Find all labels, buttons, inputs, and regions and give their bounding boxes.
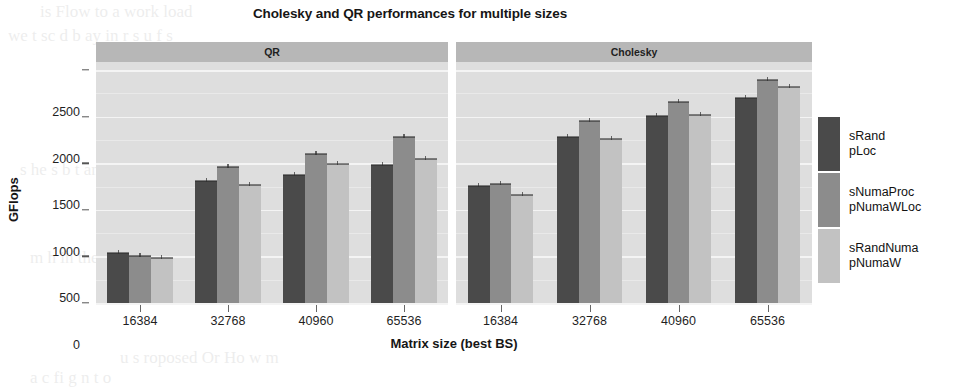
panel-strip-cholesky: Cholesky	[456, 42, 812, 62]
bar[interactable]	[511, 195, 533, 303]
bar[interactable]	[239, 185, 261, 303]
legend: sRand pLoc sNumaProc pNumaWLoc sRandNuma…	[818, 116, 973, 284]
y-tick-mark	[82, 302, 89, 303]
y-tick-label: 2500	[52, 105, 80, 119]
bar-error-whisker	[700, 112, 701, 116]
panel-qr: QR	[96, 42, 448, 305]
bar[interactable]	[217, 167, 239, 303]
legend-label-line2: pNumaW	[849, 256, 918, 271]
y-tick-mark	[82, 116, 89, 117]
bar-error-whisker	[478, 183, 479, 187]
x-tick-mark	[404, 305, 405, 312]
bar[interactable]	[600, 139, 622, 303]
legend-swatch-series1	[818, 117, 840, 171]
panel-strip-qr: QR	[96, 42, 448, 62]
bar[interactable]	[195, 181, 217, 303]
legend-label-series2: sNumaProc pNumaWLoc	[849, 185, 921, 215]
chart-title: Cholesky and QR performances for multipl…	[0, 6, 820, 21]
bar[interactable]	[757, 80, 779, 303]
x-tick-mark	[228, 305, 229, 312]
bar[interactable]	[668, 102, 690, 303]
x-tick-mark	[140, 305, 141, 312]
bar[interactable]	[557, 137, 579, 303]
bar[interactable]	[778, 87, 800, 303]
bar-error-whisker	[227, 164, 228, 168]
bar-error-whisker	[337, 161, 338, 165]
bar[interactable]	[579, 121, 601, 303]
bar-error-whisker	[611, 136, 612, 140]
x-tick-mark	[679, 305, 680, 312]
legend-item[interactable]: sNumaProc pNumaWLoc	[818, 172, 973, 228]
x-tick-mark	[316, 305, 317, 312]
y-tick-mark	[82, 209, 89, 210]
bar-error-whisker	[294, 172, 295, 176]
bar-error-whisker	[522, 192, 523, 196]
x-tick-label: 40960	[299, 314, 334, 328]
panel-cholesky: Cholesky	[456, 42, 812, 305]
x-axis-title: Matrix size (best BS)	[96, 336, 812, 351]
bar[interactable]	[393, 137, 415, 303]
bar-error-whisker	[589, 118, 590, 122]
y-tick-mark	[82, 69, 89, 70]
legend-label-line1: sRandNuma	[849, 241, 918, 255]
plot-area-qr	[96, 62, 448, 305]
bar[interactable]	[415, 159, 437, 303]
bar-error-whisker	[767, 77, 768, 81]
bar-error-whisker	[206, 178, 207, 182]
x-tick-label: 16384	[483, 314, 518, 328]
gridline	[96, 70, 448, 72]
y-tick-label: 2000	[52, 152, 80, 166]
bar-error-whisker	[382, 162, 383, 166]
legend-label-series3: sRandNuma pNumaW	[849, 241, 918, 271]
x-tick-mark	[768, 305, 769, 312]
bar[interactable]	[151, 258, 173, 303]
bar-error-whisker	[656, 113, 657, 117]
y-axis-title: GFlops	[6, 177, 21, 222]
bar[interactable]	[371, 165, 393, 303]
x-tick-label: 40960	[661, 314, 696, 328]
bar[interactable]	[468, 186, 490, 303]
bar[interactable]	[735, 98, 757, 303]
y-tick-label: 1500	[52, 198, 80, 212]
bar[interactable]	[107, 253, 129, 303]
x-tick-mark	[590, 305, 591, 312]
gridline	[456, 70, 812, 72]
gridline	[456, 303, 812, 305]
gridline-minor	[96, 93, 448, 94]
legend-item[interactable]: sRandNuma pNumaW	[818, 228, 973, 284]
bar[interactable]	[490, 184, 512, 303]
bar[interactable]	[305, 154, 327, 303]
x-tick-label: 32768	[572, 314, 607, 328]
bar-error-whisker	[678, 99, 679, 103]
legend-label-line2: pNumaWLoc	[849, 200, 921, 215]
bar-error-whisker	[789, 84, 790, 88]
bar-error-whisker	[139, 253, 140, 257]
legend-label-series1: sRand pLoc	[849, 129, 885, 159]
bar[interactable]	[646, 116, 668, 303]
legend-item[interactable]: sRand pLoc	[818, 116, 973, 172]
panel-label: QR	[264, 46, 280, 58]
legend-swatch-series2	[818, 173, 840, 227]
bar[interactable]	[327, 164, 349, 303]
legend-label-line1: sRand	[849, 129, 885, 143]
panel-label: Cholesky	[611, 46, 658, 58]
legend-swatch-series3	[818, 229, 840, 283]
y-tick-mark	[82, 162, 89, 163]
bar[interactable]	[129, 256, 151, 303]
bar-error-whisker	[745, 95, 746, 99]
plot-area-cholesky	[456, 62, 812, 305]
x-tick-label: 32768	[211, 314, 246, 328]
gridline	[96, 117, 448, 119]
y-tick-label: 500	[59, 291, 80, 305]
y-tick-mark	[82, 256, 89, 257]
bar-error-whisker	[249, 182, 250, 186]
y-tick-label: 1000	[52, 245, 80, 259]
y-axis: GFlops 05001000150020002500	[0, 42, 96, 305]
x-tick-label: 16384	[123, 314, 158, 328]
bar-error-whisker	[161, 255, 162, 259]
bar-error-whisker	[425, 156, 426, 160]
bar[interactable]	[283, 175, 305, 303]
bar[interactable]	[689, 115, 711, 303]
bar-error-whisker	[118, 250, 119, 254]
